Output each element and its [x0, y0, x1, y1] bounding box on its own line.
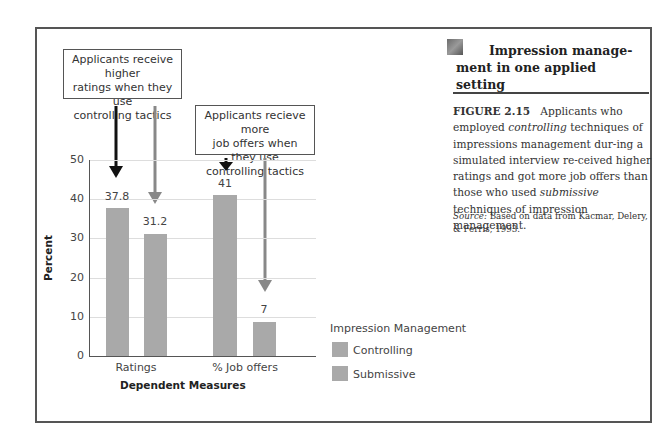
bar-ratings-submissive [144, 234, 167, 356]
bar-jobs-submissive [253, 322, 276, 356]
arrow-down-icon [108, 106, 124, 180]
caption-heading-line: ment in one applied setting [456, 59, 648, 93]
caption-emphasis: controlling [508, 121, 567, 133]
source-label: Source: [453, 211, 487, 221]
figure-label: FIGURE 2.15 [453, 105, 530, 117]
callout-ratings-line: Applicants receive higher [68, 53, 177, 81]
legend-swatch-controlling [332, 342, 348, 357]
legend-label-submissive: Submissive [353, 368, 416, 381]
y-tick-label: 30 [62, 231, 84, 244]
caption-divider [453, 92, 649, 94]
x-axis-label: Dependent Measures [120, 379, 246, 391]
y-axis [89, 160, 90, 357]
y-tick-label: 20 [62, 271, 84, 284]
y-axis-label: Percent [42, 235, 54, 281]
gridline [90, 160, 316, 161]
legend-swatch-submissive [332, 366, 348, 381]
y-tick-label: 0 [62, 349, 84, 362]
y-tick-label: 40 [62, 192, 84, 205]
x-category-label: % Job offers [210, 361, 280, 374]
bar-jobs-controlling [213, 195, 237, 356]
x-axis [89, 356, 316, 357]
caption-emphasis: submissive [540, 186, 599, 198]
value-label: 37.8 [97, 190, 137, 203]
x-category-label: Ratings [106, 361, 166, 374]
legend-label-controlling: Controlling [353, 344, 413, 357]
callout-jobs-line: Applicants recieve more [200, 109, 310, 137]
bar-ratings-controlling [106, 208, 129, 356]
callout-ratings: Applicants receive higher ratings when t… [63, 49, 182, 99]
callout-ratings-line: ratings when they use [68, 81, 177, 109]
legend-title: Impression Management [330, 322, 466, 335]
callout-jobs: Applicants recieve more job offers when … [195, 105, 315, 155]
value-label: 31.2 [135, 215, 175, 228]
value-label: 41 [205, 177, 245, 190]
y-tick-label: 10 [62, 310, 84, 323]
arrow-down-icon [257, 158, 273, 294]
y-tick-label: 50 [62, 153, 84, 166]
caption-source: Source: Based on data from Kacmar, Deler… [453, 210, 653, 235]
arrow-down-icon [147, 106, 163, 206]
value-label: 7 [244, 303, 284, 316]
caption-heading: Impression manage- ment in one applied s… [456, 42, 648, 93]
caption-heading-line: Impression manage- [456, 42, 648, 59]
